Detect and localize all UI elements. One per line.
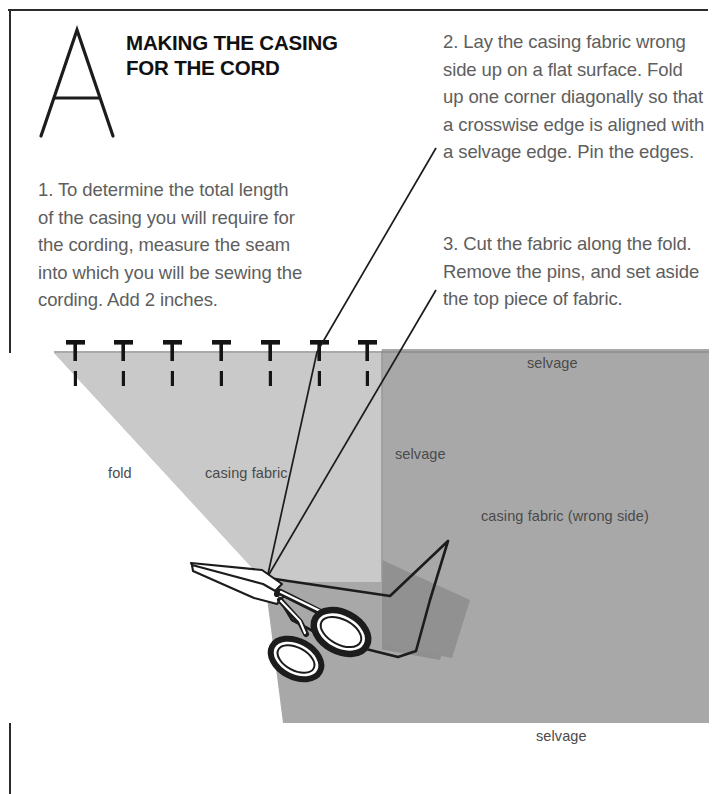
fabric-folding-illustration — [0, 0, 727, 794]
diagram-label-fold: fold — [108, 465, 132, 481]
diagram-label-casing-fabric-wrong-side: casing fabric (wrong side) — [481, 508, 649, 524]
diagram-label-selvage-bottom: selvage — [536, 728, 587, 744]
background-wedge-below-flap — [0, 582, 283, 723]
diagram-label-selvage-top: selvage — [527, 355, 578, 371]
diagram-label-casing-fabric: casing fabric — [205, 465, 288, 481]
instruction-page: MAKING THE CASING FOR THE CORD 1. To det… — [0, 0, 727, 794]
diagram-label-selvage-left: selvage — [395, 446, 446, 462]
